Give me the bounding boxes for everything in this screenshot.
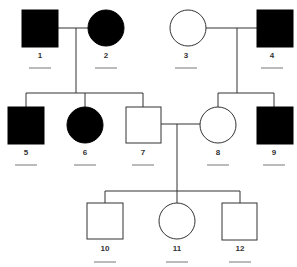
individual-6-affected-female (67, 107, 103, 143)
label-8: 8 (216, 148, 221, 157)
individual-4-affected-male (257, 10, 293, 47)
individual-11-unaffected-female (159, 203, 195, 239)
label-5: 5 (24, 148, 29, 157)
label-9: 9 (272, 148, 277, 157)
pedigree-chart: 1 2 3 4 5 6 7 8 9 10 11 12 (0, 0, 297, 267)
individual-8-unaffected-female (200, 107, 236, 143)
label-11: 11 (173, 244, 182, 253)
individual-7-unaffected-male (126, 107, 161, 143)
individual-9-affected-male (257, 107, 293, 144)
individual-3-unaffected-female (170, 10, 206, 46)
label-1: 1 (38, 51, 43, 60)
label-7: 7 (141, 148, 146, 157)
individual-5-affected-male (8, 107, 44, 144)
label-6: 6 (83, 148, 88, 157)
individual-10-unaffected-male (87, 203, 123, 239)
individual-12-unaffected-male (222, 203, 257, 240)
individual-1-affected-male (22, 10, 58, 47)
individual-2-affected-female (88, 10, 124, 46)
label-2: 2 (104, 51, 109, 60)
label-10: 10 (101, 244, 110, 253)
label-3: 3 (184, 51, 189, 60)
label-4: 4 (270, 51, 275, 60)
label-12: 12 (236, 244, 245, 253)
